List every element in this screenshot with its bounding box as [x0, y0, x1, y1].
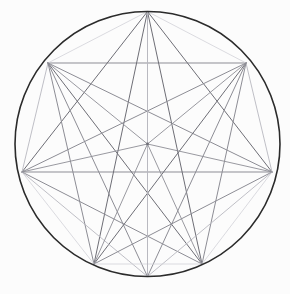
center-point-marker — [146, 143, 149, 146]
chord-ur-b — [148, 63, 247, 277]
center-hub-layer — [146, 143, 149, 146]
chord-ur-br — [202, 63, 246, 264]
circle-chord-diagram — [0, 0, 290, 294]
geometric-figure-canvas — [0, 0, 290, 294]
chord-t-ul — [48, 12, 148, 64]
chord-ur-bl — [94, 63, 246, 264]
chord-t-ur — [148, 12, 247, 64]
